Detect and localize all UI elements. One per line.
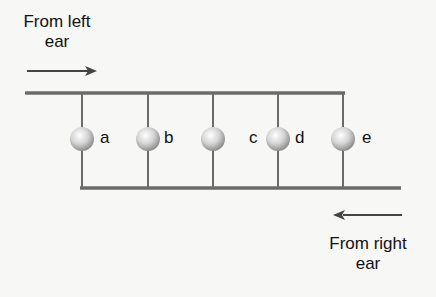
detector-b-label: b <box>164 128 173 148</box>
detector-e-ball <box>331 127 355 151</box>
detector-a-label: a <box>100 128 109 148</box>
detector-d-ball <box>266 127 290 151</box>
detector-d-label: d <box>295 128 304 148</box>
delay-line-diagram <box>0 0 436 297</box>
right-arrow-icon <box>27 66 97 76</box>
detector-e-label: e <box>362 128 371 148</box>
detector-c-ball <box>201 127 225 151</box>
detector-b-ball <box>136 127 160 151</box>
left-arrow-icon <box>333 210 402 220</box>
detector-c-label: c <box>249 128 258 148</box>
detector-a-ball <box>70 127 94 151</box>
